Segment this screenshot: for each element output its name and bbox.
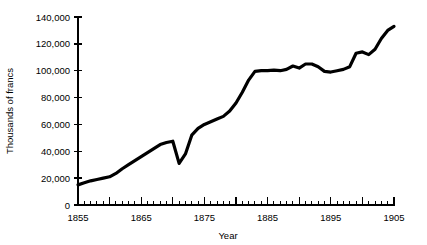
y-axis-tick-label: 60,000 (41, 119, 70, 130)
x-axis-tick-label: 1905 (383, 212, 404, 223)
x-axis-tick-label: 1865 (131, 212, 152, 223)
y-axis-tick-label: 120,000 (36, 38, 70, 49)
y-axis-tick-label: 80,000 (41, 92, 70, 103)
x-axis-tick-label: 1895 (320, 212, 341, 223)
y-axis-tick-label: 140,000 (36, 12, 70, 23)
y-axis-tick-label: 40,000 (41, 146, 70, 157)
x-axis-tick-label: 1885 (257, 212, 278, 223)
x-axis: 185518651875188518951905 (67, 197, 404, 223)
data-series (78, 26, 394, 184)
y-axis-title: Thousands of francs (4, 68, 15, 154)
series-line-0 (78, 26, 394, 184)
y-axis-tick-label: 100,000 (36, 65, 70, 76)
x-axis-tick-label: 1875 (194, 212, 215, 223)
line-chart: 020,00040,00060,00080,000100,000120,0001… (0, 0, 427, 245)
chart-container: 020,00040,00060,00080,000100,000120,0001… (0, 0, 427, 245)
y-axis-tick-label: 20,000 (41, 173, 70, 184)
y-axis: 020,00040,00060,00080,000100,000120,0001… (36, 12, 82, 211)
x-axis-tick-label: 1855 (67, 212, 88, 223)
x-axis-title: Year (218, 230, 237, 241)
y-axis-tick-label: 0 (65, 200, 70, 211)
